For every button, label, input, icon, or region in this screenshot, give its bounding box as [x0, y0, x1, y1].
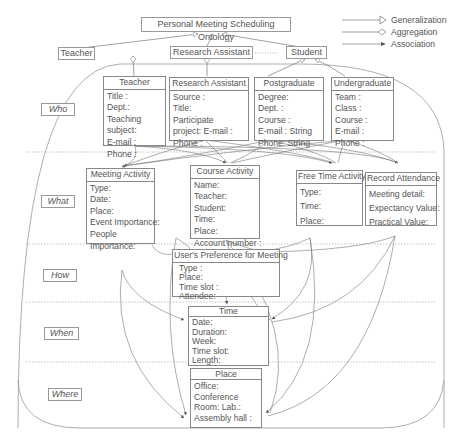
- attr: Type:: [300, 185, 359, 200]
- attr: Teacher:: [194, 191, 256, 203]
- attr: Length:: [192, 356, 265, 366]
- class-undergraduate-name: Undergraduate: [332, 78, 393, 91]
- class-research-assistant-name: Research Assistant: [170, 78, 248, 91]
- class-course-activity-name: Course Activity: [191, 166, 259, 179]
- class-time-name: Time: [189, 307, 268, 317]
- attr: Expectancy Value:: [369, 201, 433, 215]
- class-free-time-activity: Free Time Activity Type: Time: Place:: [296, 170, 363, 226]
- attr: Participate: [173, 115, 245, 127]
- attr: Room: Lab.:: [194, 402, 258, 413]
- attr: E-mail :: [107, 137, 162, 149]
- class-meeting-activity: Meeting Activity Type: Date: Place: Even…: [86, 168, 155, 244]
- top-class-student: Student: [286, 46, 327, 59]
- attr: Date:: [90, 194, 151, 206]
- attr: E-mail :: [335, 126, 390, 138]
- class-teacher-name: Teacher: [104, 77, 165, 90]
- attr: Importance:: [90, 241, 151, 253]
- legend-generalization: Generalization: [391, 15, 446, 25]
- attr: Class :: [335, 103, 390, 115]
- attr: Phone :: [335, 138, 390, 150]
- attr: Source :: [173, 92, 245, 104]
- class-course-activity: Course Activity Name: Teacher: Student: …: [190, 165, 260, 239]
- attr: Course :: [335, 115, 390, 127]
- attr: Dept.:: [107, 102, 162, 114]
- layer-where: Where: [48, 388, 82, 401]
- class-place: Place Office: Conference Room: Lab.: Ass…: [190, 368, 262, 428]
- layer-who: Who: [41, 103, 75, 116]
- layer-what: What: [41, 195, 75, 208]
- attr: Teaching: [107, 114, 162, 126]
- attr: Assembly hall :: [194, 413, 258, 424]
- attr: Degree:: [258, 92, 320, 104]
- class-meeting-activity-name: Meeting Activity: [87, 169, 154, 182]
- attr: People: [90, 229, 151, 241]
- attr: Office:: [194, 381, 258, 392]
- attr: Meeting detail:: [369, 187, 433, 201]
- layer-how: How: [43, 269, 77, 282]
- class-record-attendance: Record Attendance Meeting detail: Expect…: [365, 172, 437, 226]
- legend-aggregation: Aggregation: [391, 27, 437, 37]
- attr: Phone :: [173, 138, 245, 150]
- class-record-attendance-name: Record Attendance: [366, 173, 436, 186]
- attr: Event Importance:: [90, 217, 151, 229]
- class-users-preference-name: User's Preference for Meeting: [173, 250, 279, 263]
- layer-when: When: [44, 327, 79, 340]
- class-time: Time Date: Duration: Week: Time slot: Le…: [188, 306, 269, 366]
- attr: Type:: [90, 183, 151, 195]
- class-research-assistant: Research Assistant Source : Title: Parti…: [169, 77, 249, 141]
- attr: Time:: [300, 199, 359, 214]
- attr: Phone: String: [258, 138, 320, 150]
- attr: subject:: [107, 125, 162, 137]
- attr: Team :: [335, 92, 390, 104]
- attr: Conference: [194, 392, 258, 403]
- attr: Account number :: [194, 238, 256, 250]
- attr: Practical Value:: [369, 215, 433, 229]
- attr: Dept. :: [258, 103, 320, 115]
- top-class-teacher: Teacher: [58, 47, 95, 60]
- attr: project: E-mail :: [173, 126, 245, 138]
- class-place-name: Place: [191, 369, 261, 380]
- class-undergraduate: Undergraduate Team : Class : Course : E-…: [331, 77, 394, 141]
- class-postgraduate-name: Postgraduate: [255, 78, 323, 91]
- attr: Name:: [194, 180, 256, 192]
- attr: Course :: [258, 115, 320, 127]
- ontology-title: Personal Meeting Scheduling Ontology: [141, 17, 291, 32]
- attr: E-mail : String: [258, 126, 320, 138]
- attr: Title :: [107, 91, 162, 103]
- class-postgraduate: Postgraduate Degree: Dept. : Course : E-…: [254, 77, 324, 141]
- attr: Phone :: [107, 149, 162, 161]
- attr: Attendee:: [179, 292, 273, 302]
- attr: Place:: [300, 214, 359, 229]
- top-class-research-assistant: Research Assistant: [170, 46, 253, 59]
- class-teacher: Teacher Title : Dept.: Teaching subject:…: [103, 76, 166, 146]
- attr: Student:: [194, 203, 256, 215]
- class-users-preference: User's Preference for Meeting Type : Pla…: [172, 249, 280, 297]
- attr: Title:: [173, 103, 245, 115]
- attr: Place:: [194, 226, 256, 238]
- class-free-time-activity-name: Free Time Activity: [297, 171, 362, 184]
- attr: Place:: [90, 206, 151, 218]
- attr: Time:: [194, 214, 256, 226]
- legend-association: Association: [391, 39, 435, 49]
